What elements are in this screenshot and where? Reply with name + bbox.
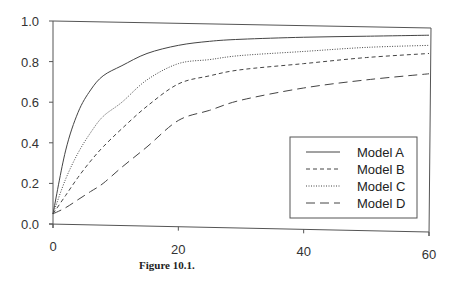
x-tick-label: 40 — [296, 244, 310, 259]
y-tick-label: 0.8 — [21, 55, 39, 70]
y-tick-label: 0.6 — [21, 95, 39, 110]
line-chart: 0.00.20.40.60.81.00204060 Model AModel B… — [0, 0, 453, 296]
plot-top-border — [53, 21, 431, 28]
legend-label: Model B — [357, 162, 405, 177]
x-tick-label: 0 — [49, 239, 56, 254]
legend-label: Model A — [357, 145, 404, 160]
plot-right-border — [429, 28, 431, 236]
legend: Model AModel BModel CModel D — [290, 137, 417, 218]
legend-label: Model C — [357, 179, 405, 194]
x-tick-label: 20 — [171, 242, 185, 257]
y-tick-label: 0.2 — [21, 176, 39, 191]
x-tick-label: 60 — [422, 247, 436, 262]
y-tick-label: 0.0 — [21, 217, 39, 232]
x-axis-line — [49, 224, 429, 232]
figure-caption: Figure 10.1. — [139, 259, 195, 271]
y-tick-label: 0.4 — [21, 136, 39, 151]
legend-label: Model D — [357, 196, 405, 211]
y-tick-label: 1.0 — [21, 14, 39, 29]
